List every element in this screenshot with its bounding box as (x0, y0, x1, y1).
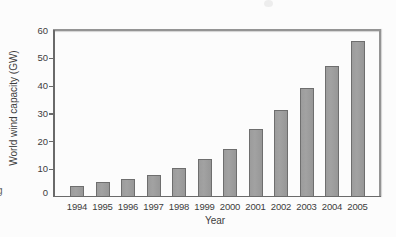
bar-1995 (96, 182, 110, 196)
y-tick-label-10: 10 (24, 163, 48, 174)
bar-2005 (351, 41, 365, 196)
bar-2002 (274, 110, 288, 196)
y-tick-label-30: 30 (24, 108, 48, 119)
y-tick-mark-10 (49, 169, 54, 170)
world-wind-capacity-bar-chart: g World wind capacity (GW) Year 19941995… (0, 0, 396, 237)
x-tick-label-2005: 2005 (342, 201, 374, 212)
scan-smudge-artifact (264, 0, 273, 7)
bar-2003 (300, 88, 314, 196)
bar-1999 (198, 159, 212, 197)
bar-2000 (223, 149, 237, 196)
bar-1996 (121, 179, 135, 196)
y-tick-mark-20 (49, 141, 54, 142)
y-axis-title: World wind capacity (GW) (8, 50, 19, 165)
bar-2001 (249, 129, 263, 196)
y-tick-label-40: 40 (24, 80, 48, 91)
x-axis-title: Year (205, 215, 225, 226)
y-tick-mark-40 (49, 86, 54, 87)
y-tick-label-0: 0 (24, 187, 48, 198)
bar-1994 (70, 186, 84, 196)
bar-2004 (325, 66, 339, 196)
bar-1997 (147, 175, 161, 196)
bar-1998 (172, 168, 186, 196)
y-tick-label-20: 20 (24, 136, 48, 147)
left-edge-text-fragment: g (0, 185, 3, 196)
y-tick-mark-50 (49, 58, 54, 59)
y-tick-label-50: 50 (24, 52, 48, 63)
y-tick-mark-30 (49, 113, 54, 114)
plot-frame-right-line (379, 29, 381, 197)
bars-container (54, 30, 379, 196)
y-tick-label-60: 60 (24, 25, 48, 36)
